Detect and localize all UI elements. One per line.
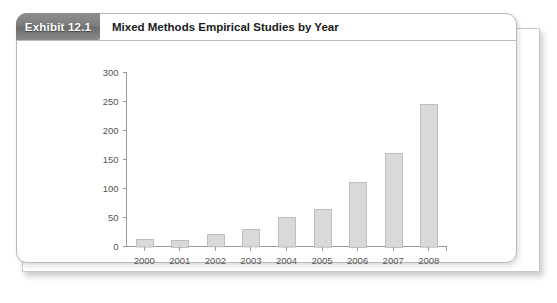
- exhibit-header: Exhibit 12.1 Mixed Methods Empirical Stu…: [16, 13, 517, 40]
- exhibit-figure: Exhibit 12.1 Mixed Methods Empirical Stu…: [0, 0, 557, 303]
- exhibit-panel: [16, 13, 517, 263]
- header-divider: [16, 40, 516, 41]
- exhibit-number-tab: Exhibit 12.1: [16, 13, 100, 40]
- exhibit-title: Mixed Methods Empirical Studies by Year: [100, 13, 517, 40]
